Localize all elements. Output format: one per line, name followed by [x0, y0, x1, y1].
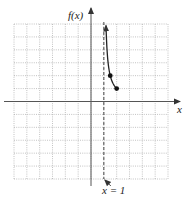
- axes: [4, 8, 180, 186]
- y-axis-label: f(x): [68, 9, 84, 22]
- function-curve: [106, 26, 117, 89]
- asymptote-label: x = 1: [101, 184, 125, 196]
- function-graph: f(x) x x = 1: [0, 0, 192, 204]
- x-axis-label: x: [176, 103, 182, 115]
- curve: [106, 26, 117, 89]
- data-point: [108, 73, 113, 78]
- data-point: [114, 86, 119, 91]
